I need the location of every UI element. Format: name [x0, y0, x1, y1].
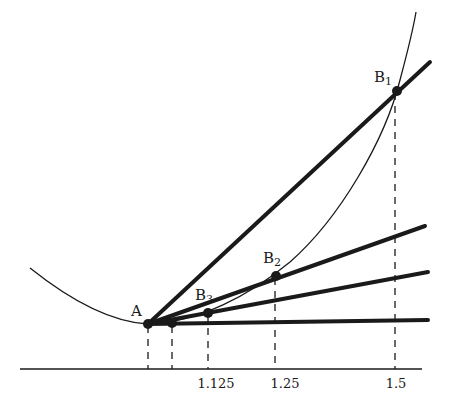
- tick-label-1-25: 1.25: [271, 377, 300, 390]
- point-B2: [271, 271, 281, 281]
- tangent-at-A: [148, 320, 428, 324]
- dashed-guides: [148, 93, 395, 369]
- tick-label-1-5: 1.5: [386, 377, 407, 390]
- secant-A-B3: [148, 272, 428, 324]
- convex-curve: [30, 12, 416, 324]
- label-B3: B3: [195, 288, 213, 305]
- diagram-canvas: [0, 0, 459, 418]
- point-B1: [392, 86, 402, 96]
- label-A: A: [131, 304, 142, 319]
- secant-A-B1: [148, 62, 430, 324]
- point-B3: [203, 308, 213, 318]
- label-B2: B2: [263, 251, 281, 268]
- point-intermediate: [167, 318, 177, 328]
- point-A: [143, 319, 153, 329]
- label-B1: B1: [374, 70, 392, 87]
- secant-tangent-diagram: A B3 B2 B1 1.125 1.25 1.5: [0, 0, 459, 418]
- tick-label-1-125: 1.125: [197, 377, 234, 390]
- secant-A-B2: [148, 226, 425, 324]
